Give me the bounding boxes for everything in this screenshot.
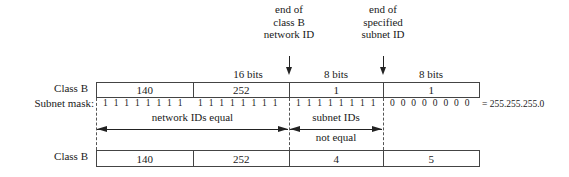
row2-label: Class B xyxy=(0,150,88,162)
network-span-arrow-icon xyxy=(97,129,288,130)
subnet-bits-label: 8 bits xyxy=(306,68,366,80)
subnet-ids-not-equal-label-1: subnet IDs xyxy=(289,111,383,123)
subnet-mask-label: Subnet mask: xyxy=(0,97,94,109)
end-of-subnet-id-annotation: end of specified subnet ID xyxy=(343,3,423,41)
mask-octet-2: 11111111 xyxy=(195,98,281,108)
octet-2: 252 xyxy=(193,151,290,166)
mask-octet-3: 11111111 xyxy=(293,98,379,108)
subnet-ids-not-equal-label-2: not equal xyxy=(289,131,383,143)
octet-2: 252 xyxy=(193,83,290,97)
boundary-left xyxy=(96,98,97,150)
address-row-2: 140 252 4 5 xyxy=(96,150,480,167)
network-bits-label: 16 bits xyxy=(218,68,278,80)
octet-3: 4 xyxy=(289,151,383,166)
mask-octet-1: 11111111 xyxy=(100,98,186,108)
row1-label: Class B xyxy=(0,82,88,94)
mask-equals-value: = 255.255.255.0 xyxy=(482,99,544,109)
octet-4: 1 xyxy=(383,83,480,97)
network-ids-equal-label: network IDs equal xyxy=(96,111,289,123)
octet-1: 140 xyxy=(97,83,193,97)
mask-octet-4: 00000000 xyxy=(387,98,473,108)
subnet-span-arrow-icon xyxy=(290,129,382,130)
octet-3: 1 xyxy=(289,83,383,97)
address-row-1: 140 252 1 1 xyxy=(96,82,480,98)
boundary-subnet-end xyxy=(383,98,384,150)
octet-1: 140 xyxy=(97,151,193,166)
octet-4: 5 xyxy=(383,151,480,166)
host-bits-label: 8 bits xyxy=(401,68,461,80)
end-of-network-id-annotation: end of class B network ID xyxy=(249,3,329,41)
